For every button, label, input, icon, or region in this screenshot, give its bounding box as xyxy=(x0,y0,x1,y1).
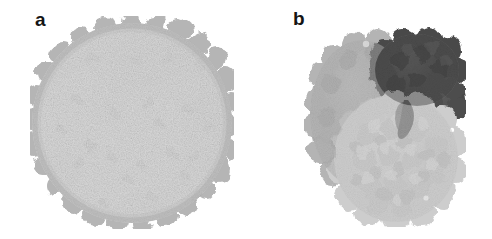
figure-root: a xyxy=(0,0,492,239)
complex-grain-overlay xyxy=(310,34,459,222)
capsid-particle xyxy=(30,16,234,229)
macromolecular-complex xyxy=(304,22,466,227)
capsid-surface-render xyxy=(30,16,234,229)
panel-a: a xyxy=(0,0,246,239)
complex-surface-render xyxy=(304,22,466,227)
panel-b-label: b xyxy=(293,9,305,28)
panel-b: b xyxy=(246,0,492,239)
